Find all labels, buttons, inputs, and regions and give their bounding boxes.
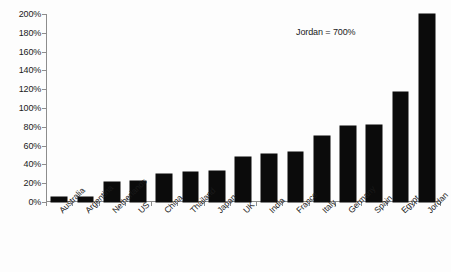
jordan-annotation: Jordan = 700% — [296, 27, 356, 37]
x-axis-label-slot: France — [282, 206, 308, 270]
bars-layer — [46, 14, 440, 202]
x-axis-label-slot: Egypt — [387, 206, 413, 270]
bar-chart: 0%20%40%60%80%100%120%140%160%180%200% A… — [0, 0, 451, 272]
bar — [314, 136, 330, 202]
x-axis-label-slot: UK — [230, 206, 256, 270]
bar-slot — [46, 14, 72, 202]
x-axis-label-slot: Jordan — [414, 206, 440, 270]
bar-slot — [309, 14, 335, 202]
x-axis-label-slot: Australia — [46, 206, 72, 270]
x-axis-label-slot: China — [151, 206, 177, 270]
x-axis-label-slot: US — [125, 206, 151, 270]
x-axis-category-labels: AustraliaArgentinaNetherlandsUSChinaThai… — [46, 206, 440, 270]
bar — [235, 157, 251, 202]
bar-slot — [256, 14, 282, 202]
bar-slot — [387, 14, 413, 202]
bar-slot — [335, 14, 361, 202]
bar — [340, 126, 356, 202]
bar — [156, 174, 172, 202]
bar-slot — [99, 14, 125, 202]
bar — [288, 152, 304, 202]
bar-slot — [204, 14, 230, 202]
bar-slot — [414, 14, 440, 202]
bar — [183, 172, 199, 202]
x-axis-label-slot: Thailand — [177, 206, 203, 270]
bar-slot — [282, 14, 308, 202]
x-axis-label-slot: Germany — [335, 206, 361, 270]
x-axis-label-slot: Spain — [361, 206, 387, 270]
bar-slot — [72, 14, 98, 202]
bar — [261, 154, 277, 202]
bar-slot — [361, 14, 387, 202]
bar — [419, 14, 435, 202]
x-axis-label-slot: Japan — [204, 206, 230, 270]
x-axis-label-slot: Netherlands — [99, 206, 125, 270]
x-axis-label-slot: India — [256, 206, 282, 270]
bar-slot — [151, 14, 177, 202]
bar — [393, 92, 409, 202]
bar-slot — [125, 14, 151, 202]
x-axis-label-slot: Italy — [309, 206, 335, 270]
bar-slot — [230, 14, 256, 202]
x-axis-label-slot: Argentina — [72, 206, 98, 270]
bar-slot — [177, 14, 203, 202]
